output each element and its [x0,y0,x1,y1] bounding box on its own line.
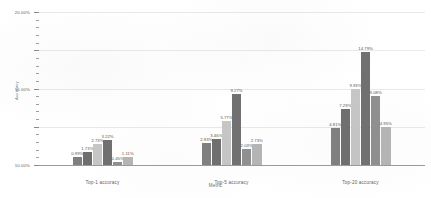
bar[interactable]: 0.45% [113,162,123,165]
y-tick-minor [36,27,39,28]
bar-value-label: 4.81% [329,122,341,127]
y-tick-minor [36,150,39,151]
bar[interactable]: 7.29% [341,109,351,165]
y-tick-label: 10.00% [15,163,30,168]
bar[interactable]: 3.46% [212,139,222,165]
bar-value-label: 0.99% [71,151,83,156]
y-tick-minor [36,43,39,44]
bar-chart: Accuracy 0.00%5.00%10.00%15.00%20.00%0.9… [0,0,431,198]
bar-value-label: 9.27% [230,88,242,93]
y-tick-minor [36,157,39,158]
y-tick-minor [36,142,39,143]
bar-value-label: 5.77% [220,115,232,120]
bar[interactable]: 5.77% [222,121,232,165]
bar[interactable]: 2.03% [242,149,252,165]
bar[interactable]: 2.93% [202,143,212,165]
y-tick-minor [36,81,39,82]
y-tick: 15.00% [34,50,39,51]
bar[interactable]: 4.95% [381,127,391,165]
bar[interactable]: 2.73% [252,144,262,165]
bar[interactable]: 14.79% [361,52,371,165]
y-tick: 20.00% [34,12,39,13]
y-tick: 5.00% [34,127,39,128]
bar-group: 0.99%1.73%2.73%3.22%0.45%1.11% [73,12,133,165]
bar[interactable]: 1.11% [123,157,133,165]
y-tick-minor [36,35,39,36]
bar-value-label: 2.03% [241,143,253,148]
bar[interactable]: 1.73% [83,152,93,165]
y-tick-minor [36,96,39,97]
bar-group: 4.81%7.29%9.93%14.79%9.08%4.95% [331,12,391,165]
bar-value-label: 9.08% [370,90,382,95]
bar[interactable]: 9.93% [351,89,361,165]
bar-value-label: 2.73% [251,138,263,143]
bar-value-label: 7.29% [339,103,351,108]
bar-value-label: 14.79% [358,46,373,51]
bar-value-label: 3.46% [210,133,222,138]
bar[interactable]: 4.81% [331,128,341,165]
bar[interactable]: 2.73% [93,144,103,165]
y-tick: 0.00% [34,165,39,166]
bar-value-label: 1.73% [81,146,93,151]
bar-value-label: 1.11% [122,151,134,156]
y-tick-minor [36,119,39,120]
bar-value-label: 3.22% [101,134,113,139]
bar[interactable]: 9.27% [232,94,242,165]
plot-area: 0.00%5.00%10.00%15.00%20.00%0.99%1.73%2.… [38,12,425,165]
y-tick-label: 15.00% [15,86,30,91]
y-tick-label: 20.00% [15,10,30,15]
y-tick-minor [36,58,39,59]
bar[interactable]: 0.99% [73,157,83,165]
bar[interactable]: 9.08% [371,96,381,165]
y-tick-minor [36,66,39,67]
y-tick-minor [36,134,39,135]
bar-group: 2.93%3.46%5.77%9.27%2.03%2.73% [202,12,262,165]
y-tick-minor [36,73,39,74]
bar-value-label: 9.93% [349,83,361,88]
x-axis-title: Metric [0,183,431,188]
bar[interactable]: 3.22% [103,140,113,165]
bar-value-label: 0.45% [112,156,124,161]
bar-value-label: 4.95% [380,121,392,126]
y-tick: 10.00% [34,89,39,90]
y-tick-minor [36,104,39,105]
x-axis-line [38,165,425,166]
y-tick-minor [36,111,39,112]
y-tick-minor [36,20,39,21]
